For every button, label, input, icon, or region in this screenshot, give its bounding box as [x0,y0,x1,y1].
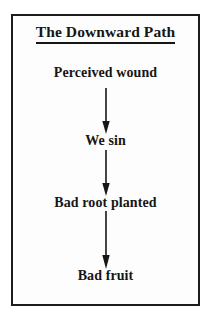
diagram-border-frame: The Downward Path Perceived wound We sin… [11,14,200,306]
flow-node-we-sin: We sin [13,134,198,149]
down-arrow-icon [100,211,112,269]
down-arrow-icon [100,88,112,134]
diagram-title-container: The Downward Path [13,23,198,44]
flow-node-bad-fruit: Bad fruit [13,269,198,284]
diagram-content: The Downward Path Perceived wound We sin… [13,16,198,304]
flow-node-perceived-wound: Perceived wound [13,66,198,81]
diagram-title: The Downward Path [36,23,176,44]
down-arrow-icon [100,150,112,196]
flow-node-bad-root-planted: Bad root planted [13,196,198,211]
diagram-canvas: The Downward Path Perceived wound We sin… [0,0,208,322]
